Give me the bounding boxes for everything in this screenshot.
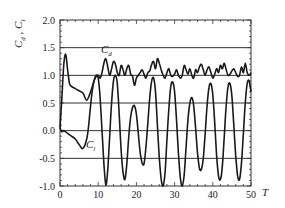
x-tick-label: 0 bbox=[58, 189, 63, 200]
annotation-cl: Cl bbox=[86, 138, 95, 153]
y-tick-label: 1.0 bbox=[43, 70, 56, 81]
x-axis-title: T bbox=[262, 186, 269, 198]
x-tick-labels: 01020304050 bbox=[58, 189, 257, 200]
x-tick-label: 50 bbox=[246, 189, 256, 200]
y-tick-label: 2.0 bbox=[43, 15, 56, 26]
y-tick-label: 1.5 bbox=[43, 42, 56, 53]
y-tick-label: 0.5 bbox=[43, 98, 56, 109]
x-tick-label: 20 bbox=[131, 189, 141, 200]
x-tick-label: 40 bbox=[208, 189, 218, 200]
y-tick-label: -0.5 bbox=[39, 153, 55, 164]
data-series bbox=[60, 54, 251, 186]
chart: -1.0-0.50.00.51.01.52.0 01020304050 T Cd… bbox=[0, 0, 285, 208]
x-tick-label: 10 bbox=[93, 189, 103, 200]
y-tick-labels: -1.0-0.50.00.51.01.52.0 bbox=[39, 15, 55, 192]
y-tick-label: 0.0 bbox=[43, 125, 56, 136]
y-axis-title: Cd , Cl bbox=[12, 20, 27, 48]
y-tick-label: -1.0 bbox=[39, 181, 55, 192]
annotation-cd: Cd bbox=[101, 43, 112, 58]
svg-text:Cd , Cl: Cd , Cl bbox=[12, 20, 27, 48]
x-tick-label: 30 bbox=[170, 189, 180, 200]
